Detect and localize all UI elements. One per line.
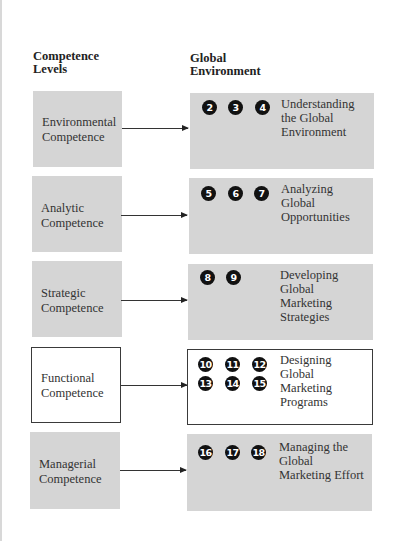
label-line: Strategies bbox=[280, 310, 338, 324]
environment-box-developing: 8 9 Developing Global Marketing Strategi… bbox=[188, 264, 373, 340]
label-line: Global bbox=[279, 454, 364, 468]
label-line: Functional bbox=[41, 371, 103, 386]
chapter-badge: 2 bbox=[202, 100, 217, 115]
arrow-connector bbox=[121, 215, 187, 216]
environment-box-designing: 10 11 12 13 14 15 Designing Global Marke… bbox=[187, 349, 373, 425]
label-line: Managing the bbox=[279, 440, 364, 454]
chapter-badge: 5 bbox=[201, 186, 216, 201]
chapter-badge: 3 bbox=[228, 100, 243, 115]
header-line: Environment bbox=[190, 65, 261, 78]
chapter-badge: 14 bbox=[225, 376, 240, 391]
header-line: Levels bbox=[33, 63, 99, 76]
label-line: Programs bbox=[280, 395, 332, 409]
arrow-connector bbox=[122, 128, 188, 129]
chapter-badge: 8 bbox=[200, 270, 215, 285]
header-global-environment: Global Environment bbox=[190, 52, 261, 78]
competence-label: Functional Competence bbox=[41, 371, 103, 401]
chapter-badge: 15 bbox=[252, 376, 267, 391]
chapter-badge: 12 bbox=[252, 357, 267, 372]
label-line: Strategic bbox=[41, 286, 103, 301]
chapter-badge: 6 bbox=[228, 186, 243, 201]
competence-box-environmental: Environmental Competence bbox=[33, 91, 122, 167]
competence-label: Analytic Competence bbox=[41, 201, 103, 231]
competence-label: Managerial Competence bbox=[39, 457, 101, 487]
label-line: Competence bbox=[41, 216, 103, 231]
label-line: Managerial bbox=[39, 457, 101, 472]
label-line: Opportunities bbox=[281, 210, 350, 224]
competence-box-analytic: Analytic Competence bbox=[32, 176, 122, 252]
label-line: Understanding bbox=[281, 97, 355, 111]
label-line: Analytic bbox=[41, 201, 103, 216]
label-line: Competence bbox=[39, 472, 101, 487]
arrow-connector bbox=[120, 470, 186, 471]
header-competence-levels: Competence Levels bbox=[33, 50, 99, 76]
label-line: Environment bbox=[281, 125, 355, 139]
competence-box-functional: Functional Competence bbox=[31, 347, 121, 423]
arrow-connector bbox=[121, 300, 187, 301]
competence-label: Environmental Competence bbox=[42, 115, 116, 145]
environment-label: Understanding the Global Environment bbox=[281, 97, 355, 139]
label-line: Environmental bbox=[42, 115, 116, 130]
arrow-connector bbox=[121, 385, 187, 386]
page-edge bbox=[0, 0, 2, 541]
environment-label: Analyzing Global Opportunities bbox=[281, 182, 350, 224]
competence-label: Strategic Competence bbox=[41, 286, 103, 316]
chapter-badge: 13 bbox=[198, 376, 213, 391]
competence-box-managerial: Managerial Competence bbox=[30, 432, 120, 509]
chapter-badge: 16 bbox=[198, 445, 213, 460]
chapter-badge: 10 bbox=[198, 357, 213, 372]
label-line: Developing bbox=[280, 268, 338, 282]
competence-box-strategic: Strategic Competence bbox=[32, 261, 122, 337]
label-line: Competence bbox=[41, 301, 103, 316]
chapter-badge: 11 bbox=[225, 357, 240, 372]
label-line: Global bbox=[280, 367, 332, 381]
environment-label: Managing the Global Marketing Effort bbox=[279, 440, 364, 482]
environment-box-managing: 16 17 18 Managing the Global Marketing E… bbox=[187, 434, 372, 511]
label-line: Competence bbox=[41, 386, 103, 401]
label-line: Analyzing bbox=[281, 182, 350, 196]
environment-label: Designing Global Marketing Programs bbox=[280, 353, 332, 409]
label-line: Global bbox=[280, 282, 338, 296]
label-line: Marketing bbox=[280, 296, 338, 310]
label-line: Designing bbox=[280, 353, 332, 367]
label-line: Competence bbox=[42, 130, 116, 145]
label-line: Marketing bbox=[280, 381, 332, 395]
label-line: Marketing Effort bbox=[279, 468, 364, 482]
label-line: Global bbox=[281, 196, 350, 210]
chapter-badge: 9 bbox=[226, 270, 241, 285]
environment-label: Developing Global Marketing Strategies bbox=[280, 268, 338, 324]
chapter-badge: 7 bbox=[254, 186, 269, 201]
label-line: the Global bbox=[281, 111, 355, 125]
environment-box-analyzing: 5 6 7 Analyzing Global Opportunities bbox=[189, 178, 373, 254]
chapter-badge: 4 bbox=[255, 100, 270, 115]
chapter-badge: 17 bbox=[225, 445, 240, 460]
environment-box-understanding: 2 3 4 Understanding the Global Environme… bbox=[190, 93, 374, 169]
chapter-badge: 18 bbox=[251, 445, 266, 460]
